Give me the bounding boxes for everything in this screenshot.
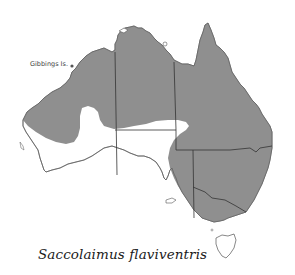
distribution-map: [0, 0, 295, 275]
tasmania: [216, 234, 236, 258]
kangaroo-island: [166, 198, 176, 203]
range-area: [23, 23, 272, 222]
gibbings-island-label: Gibbings Is.: [30, 60, 68, 68]
gibbings-island-marker: [70, 64, 73, 67]
shark-bay-islands: [20, 142, 24, 150]
groote-island: [163, 42, 167, 46]
small-island: [211, 229, 213, 231]
species-caption: Saccolaimus flaviventris: [38, 246, 207, 262]
